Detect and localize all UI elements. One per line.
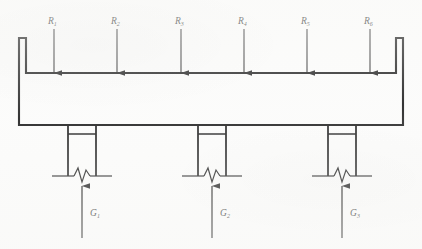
support-3-break-symbol bbox=[334, 168, 350, 182]
load-label-3: R3 bbox=[174, 16, 184, 27]
beam-load-diagram: R1 R2 R3 R4 R5 R6 G1 G2 bbox=[0, 0, 422, 249]
load-label-1: R1 bbox=[47, 16, 57, 27]
reaction-label-1: G1 bbox=[90, 208, 100, 219]
load-label-5: R5 bbox=[300, 16, 310, 27]
support-column-1: G1 bbox=[52, 125, 112, 238]
load-label-6: R6 bbox=[363, 16, 373, 27]
load-label-4: R4 bbox=[237, 16, 247, 27]
load-label-group: R1 R2 R3 R4 R5 R6 bbox=[47, 16, 373, 27]
reaction-label-3: G3 bbox=[350, 208, 360, 219]
support-1-break-symbol bbox=[74, 168, 90, 182]
beam-outline bbox=[19, 38, 403, 125]
support-column-3: G3 bbox=[312, 125, 372, 238]
support-2-break-symbol bbox=[204, 168, 220, 182]
beam-channel-path bbox=[19, 38, 403, 125]
reaction-label-2: G2 bbox=[220, 208, 230, 219]
load-label-2: R2 bbox=[110, 16, 120, 27]
diagram-canvas: R1 R2 R3 R4 R5 R6 G1 G2 bbox=[0, 0, 422, 249]
load-arrow-group bbox=[54, 29, 370, 73]
support-column-2: G2 bbox=[182, 125, 242, 238]
